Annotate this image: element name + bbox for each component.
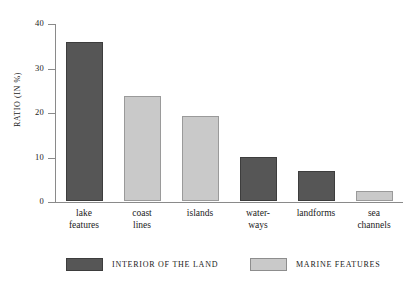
x-axis-line	[55, 202, 403, 203]
y-axis-tick-label: 40	[35, 18, 44, 28]
chart-legend: INTERIOR OF THE LANDMARINE FEATURES	[0, 258, 415, 278]
y-axis-tick-label: 20	[35, 107, 44, 117]
legend-label: MARINE FEATURES	[296, 260, 380, 269]
bar	[66, 42, 103, 201]
y-axis-tick: 0	[48, 202, 55, 203]
legend-swatch	[250, 258, 287, 271]
category-label-line: water-	[229, 208, 287, 220]
category-label-line: sea	[345, 208, 403, 220]
bar	[356, 191, 393, 201]
bar	[182, 116, 219, 201]
y-axis-tick: 30	[48, 69, 55, 70]
y-axis-tick: 20	[48, 113, 55, 114]
y-axis-tick-label: 10	[35, 152, 44, 162]
category-label-line: lines	[113, 220, 171, 232]
category-label-line: lake	[55, 208, 113, 220]
y-axis-tick-label: 30	[35, 63, 44, 73]
category-label-line: features	[55, 220, 113, 232]
y-axis-tick: 40	[48, 24, 55, 25]
x-axis-category-label: seachannels	[345, 208, 403, 231]
plot-area: 010203040	[55, 24, 403, 202]
y-axis-tick-label: 0	[40, 196, 44, 206]
x-axis-category-label: coastlines	[113, 208, 171, 231]
bar-chart: RATIO (in %) 010203040 lakefeaturescoast…	[0, 0, 415, 290]
legend-label: INTERIOR OF THE LAND	[112, 260, 218, 269]
legend-swatch	[66, 258, 103, 271]
legend-item: MARINE FEATURES	[250, 258, 380, 271]
y-axis-title: RATIO (in %)	[13, 55, 22, 145]
bar	[298, 171, 335, 201]
x-axis-category-label: water-ways	[229, 208, 287, 231]
category-label-line: channels	[345, 220, 403, 232]
category-label-line: landforms	[287, 208, 345, 220]
x-axis-category-label: islands	[171, 208, 229, 220]
y-axis-tick: 10	[48, 158, 55, 159]
category-label-line: islands	[171, 208, 229, 220]
y-axis-line	[55, 24, 56, 203]
bar	[124, 96, 161, 201]
category-label-line: ways	[229, 220, 287, 232]
category-label-line: coast	[113, 208, 171, 220]
legend-item: INTERIOR OF THE LAND	[66, 258, 218, 271]
x-axis-category-label: landforms	[287, 208, 345, 220]
bar	[240, 157, 277, 202]
x-axis-category-label: lakefeatures	[55, 208, 113, 231]
